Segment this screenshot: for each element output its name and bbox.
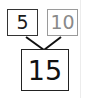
whole-value: 15 <box>28 57 62 84</box>
part-value-right: 10 <box>50 13 74 32</box>
whole-box: 15 <box>21 49 69 91</box>
part-value-left: 5 <box>16 13 28 32</box>
part-box-right: 10 <box>47 9 78 36</box>
part-box-left: 5 <box>7 9 38 36</box>
